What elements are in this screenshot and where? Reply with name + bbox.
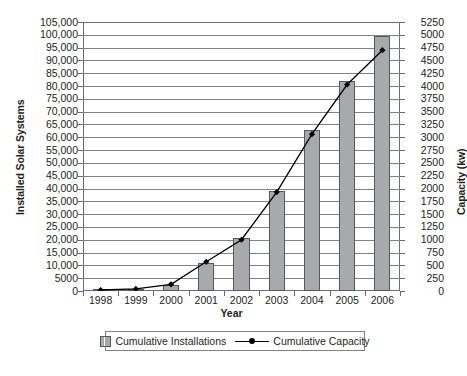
y-axis-right-tick-mark — [400, 112, 405, 113]
y-axis-left-tick-mark — [78, 35, 83, 36]
y-axis-right-tick-mark — [400, 265, 405, 266]
y-axis-left-tick-label: 10,000 — [16, 260, 78, 270]
y-axis-left-tick-label: 95,000 — [16, 42, 78, 52]
y-axis-left-tick-label: 15,000 — [16, 247, 78, 257]
y-axis-left-tick-label: 25,000 — [16, 221, 78, 231]
y-axis-left-tick-mark — [78, 150, 83, 151]
y-axis-left-tick-mark — [78, 163, 83, 164]
y-axis-left-tick-label: 20,000 — [16, 234, 78, 244]
y-axis-left-tick-mark — [78, 240, 83, 241]
y-axis-right-tick-mark — [400, 22, 405, 23]
x-axis-title: Year — [0, 307, 463, 319]
y-axis-right-tick-mark — [400, 99, 405, 100]
y-axis-left-tick-mark — [78, 22, 83, 23]
bar — [339, 81, 355, 291]
bar — [374, 36, 390, 291]
y-axis-left-tick-mark — [78, 60, 83, 61]
line-swatch-icon — [235, 336, 269, 347]
y-axis-right-tick-mark — [400, 150, 405, 151]
bar-swatch-icon — [100, 336, 111, 347]
y-axis-right-tick-mark — [400, 35, 405, 36]
y-axis-right-tick-label: 2750 — [410, 145, 444, 155]
legend-label-capacity: Cumulative Capacity — [273, 335, 369, 347]
y-axis-left-tick-label: 70,000 — [16, 106, 78, 116]
y-axis-right-tick-label: 3000 — [410, 132, 444, 142]
y-axis-left-tick-label: 45,000 — [16, 170, 78, 180]
y-axis-right-tick-mark — [400, 240, 405, 241]
legend-item-capacity: Cumulative Capacity — [235, 335, 369, 347]
y-axis-left-tick-label: 80,000 — [16, 81, 78, 91]
y-axis-right-tick-mark — [400, 137, 405, 138]
y-axis-right-tick-label: 0 — [410, 286, 444, 296]
y-axis-right-tick-label: 2000 — [410, 183, 444, 193]
bar — [93, 289, 109, 291]
y-axis-left-tick-mark — [78, 86, 83, 87]
y-axis-right-tick-label: 4000 — [410, 81, 444, 91]
y-axis-right-tick-mark — [400, 201, 405, 202]
y-axis-left-tick-label: 0 — [16, 286, 78, 296]
y-axis-right-tick-label: 1750 — [410, 196, 444, 206]
chart-legend: Cumulative Installations Cumulative Capa… — [105, 331, 365, 351]
bar — [163, 285, 179, 291]
y-axis-left-tick-label: 105,000 — [16, 17, 78, 27]
legend-label-installations: Cumulative Installations — [115, 335, 226, 347]
y-axis-right-tick-label: 4500 — [410, 55, 444, 65]
y-axis-left-tick-mark — [78, 265, 83, 266]
y-axis-left-tick-mark — [78, 176, 83, 177]
y-axis-right-tick-mark — [400, 176, 405, 177]
y-axis-left-tick-label: 30,000 — [16, 209, 78, 219]
bar — [198, 263, 214, 291]
y-axis-right-tick-label: 500 — [410, 260, 444, 270]
y-axis-right-tick-mark — [400, 227, 405, 228]
bar — [304, 130, 320, 291]
y-axis-right-tick-label: 2500 — [410, 157, 444, 167]
y-axis-left-tick-mark — [78, 99, 83, 100]
y-axis-left-tick-mark — [78, 278, 83, 279]
y-axis-right-tick-mark — [400, 60, 405, 61]
y-axis-left-tick-mark — [78, 227, 83, 228]
y-axis-left-tick-label: 50,000 — [16, 157, 78, 167]
bar — [269, 191, 285, 291]
y-axis-left-tick-mark — [78, 48, 83, 49]
gridline — [83, 48, 400, 49]
y-axis-left-tick-label: 55,000 — [16, 145, 78, 155]
y-axis-left-tick-label: 40,000 — [16, 183, 78, 193]
x-axis-tick-label: 2006 — [358, 294, 406, 306]
y-axis-left-tick-mark — [78, 124, 83, 125]
y-axis-right-tick-label: 1250 — [410, 221, 444, 231]
y-axis-right-tick-label: 3500 — [410, 106, 444, 116]
y-axis-left-tick-label: 35,000 — [16, 196, 78, 206]
y-axis-right-tick-mark — [400, 278, 405, 279]
bar — [128, 289, 144, 291]
y-axis-right-title: Capacity (kw) — [455, 149, 467, 215]
y-axis-left-tick-mark — [78, 214, 83, 215]
y-axis-right-tick-label: 4250 — [410, 68, 444, 78]
legend-item-installations: Cumulative Installations — [100, 335, 226, 347]
y-axis-right-tick-label: 1000 — [410, 234, 444, 244]
y-axis-right-tick-mark — [400, 86, 405, 87]
y-axis-left-tick-mark — [78, 112, 83, 113]
y-axis-right-tick-label: 250 — [410, 273, 444, 283]
y-axis-right-tick-mark — [400, 253, 405, 254]
y-axis-left-tick-label: 85,000 — [16, 68, 78, 78]
y-axis-left-tick-mark — [78, 137, 83, 138]
y-axis-right-tick-label: 750 — [410, 247, 444, 257]
gridline — [83, 60, 400, 61]
y-axis-right-tick-mark — [400, 73, 405, 74]
y-axis-right-tick-label: 3250 — [410, 119, 444, 129]
plot-area — [83, 22, 400, 291]
y-axis-right-tick-label: 5250 — [410, 17, 444, 27]
y-axis-left-tick-label: 90,000 — [16, 55, 78, 65]
y-axis-right-tick-label: 5000 — [410, 29, 444, 39]
y-axis-left-tick-mark — [78, 253, 83, 254]
y-axis-left-tick-mark — [78, 189, 83, 190]
y-axis-right-tick-label: 4750 — [410, 42, 444, 52]
y-axis-left-tick-mark — [78, 73, 83, 74]
y-axis-left-tick-label: 60,000 — [16, 132, 78, 142]
y-axis-right-tick-mark — [400, 48, 405, 49]
y-axis-left-tick-mark — [78, 201, 83, 202]
y-axis-right-tick-label: 1500 — [410, 209, 444, 219]
y-axis-right-tick-label: 2250 — [410, 170, 444, 180]
y-axis-right-tick-mark — [400, 163, 405, 164]
